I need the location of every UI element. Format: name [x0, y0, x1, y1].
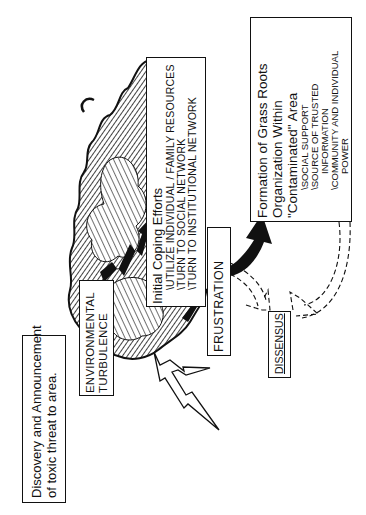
arrow-grassroots-to-dissensus [290, 222, 350, 318]
node-discovery: Discovery and Announcement of toxic thre… [22, 335, 66, 503]
lightning-bolt-icon [154, 352, 219, 430]
node-frustration: FRUSTRATION [207, 227, 231, 356]
grassroots-item-5: POWER [340, 51, 350, 218]
coping-title: Initial Coping Efforts [150, 64, 165, 304]
node-dissensus: DISSENSUS [268, 311, 291, 378]
grassroots-item-4: \COMMUNITY AND INDIVIDUAL [330, 51, 340, 218]
grassroots-title-2: Organization Within [270, 51, 285, 218]
node-environmental-turbulence: ENVIRONMENTAL TURBULENCE [79, 280, 114, 396]
discovery-line-1: Discovery and Announcement [29, 325, 44, 498]
node-grass-roots: Formation of Grass Roots Organization Wi… [250, 17, 352, 222]
node-initial-coping: Initial Coping Efforts \UTILIZE INDIVIDU… [146, 57, 206, 307]
grassroots-title-3: "Contaminated" Area [285, 51, 300, 218]
frustration-label: FRUSTRATION [211, 261, 227, 352]
arrow-frustration-to-grassroots [230, 214, 272, 276]
discovery-line-2: of toxic threat to area. [44, 325, 59, 498]
turbulence-line-2: TURBULENCE [97, 292, 110, 393]
grassroots-title-1: Formation of Grass Roots [255, 51, 270, 218]
coping-item-3: \TURN TO INSTITUTIONAL NETWORK [187, 64, 198, 304]
turbulence-line-1: ENVIRONMENTAL [84, 292, 97, 393]
dissensus-label: DISSENSUS [272, 313, 287, 374]
